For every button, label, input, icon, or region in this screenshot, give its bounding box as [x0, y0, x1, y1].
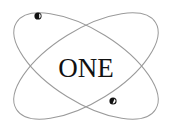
- one-logo: ONE: [0, 0, 172, 131]
- planet-dot-icon: [109, 97, 116, 104]
- logo-text: ONE: [0, 53, 172, 83]
- planet-dot-icon: [34, 12, 41, 19]
